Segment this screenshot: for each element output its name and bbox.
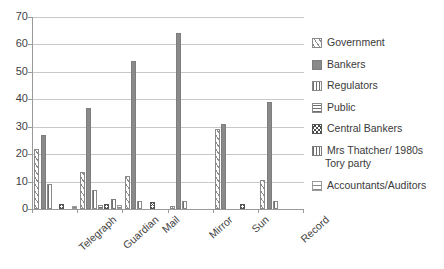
y-axis-tick-mark (28, 99, 32, 100)
bar-bankers-sun (221, 124, 226, 209)
bar-bankers-telegraph (41, 135, 46, 209)
x-axis-label-sun: Sun (250, 214, 271, 234)
legend-swatch-central-bankers-icon (312, 124, 322, 134)
x-axis-label-guardian: Guardian (121, 214, 160, 251)
bar-group (169, 17, 214, 209)
y-axis-tick-mark (28, 72, 32, 73)
bar-regulators-mirror (182, 201, 187, 209)
legend-label: Accountants/Auditors (327, 179, 426, 191)
legend-item-central-bankers[interactable]: Central Bankers (312, 122, 442, 134)
bar-regulators-record (273, 201, 278, 209)
legend-item-public[interactable]: Public (312, 101, 442, 113)
bar-bankers-guardian (86, 108, 91, 209)
legend-item-accountants[interactable]: Accountants/Auditors (312, 179, 442, 191)
y-axis-tick-label: 10 (2, 176, 28, 187)
x-axis-tick-mark (258, 209, 259, 213)
bar-accountants-telegraph (72, 206, 77, 209)
y-axis-tick-mark (28, 44, 32, 45)
x-axis-label-telegraph: Telegraph (76, 214, 117, 253)
y-axis-tick-mark (28, 182, 32, 183)
x-axis-label-mirror: Mirror (207, 214, 234, 240)
y-axis-tick-label: 20 (2, 148, 28, 159)
bar-bankers-record (267, 102, 272, 209)
bar-central-bankers-mail (150, 202, 155, 209)
legend-swatch-thatcher-icon (312, 146, 322, 156)
bar-government-record (260, 180, 265, 209)
bar-bankers-mail (131, 61, 136, 209)
bar-group (259, 17, 304, 209)
legend-label: Central Bankers (327, 122, 402, 134)
x-axis-tick-mark (77, 209, 78, 213)
y-axis-tick-label: 70 (2, 11, 28, 22)
x-axis-label-mail: Mail (160, 214, 181, 235)
bar-regulators-telegraph (47, 184, 52, 209)
bar-government-guardian (80, 172, 85, 209)
legend-item-government[interactable]: Government (312, 36, 442, 48)
x-axis-tick-mark (32, 209, 33, 213)
bar-chart: 010203040506070 TelegraphGuardianMailMir… (0, 0, 444, 269)
bar-group (78, 17, 123, 209)
y-axis-tick-label: 50 (2, 66, 28, 77)
bar-accountants-guardian (117, 205, 122, 209)
legend-item-bankers[interactable]: Bankers (312, 58, 442, 70)
y-axis-tick-label: 60 (2, 38, 28, 49)
bar-regulators-mail (137, 201, 142, 209)
legend-label: Bankers (327, 58, 366, 70)
y-axis-tick-label: 40 (2, 93, 28, 104)
bar-group (33, 17, 78, 209)
bar-thatcher-guardian (111, 199, 116, 209)
bar-public-guardian (98, 205, 103, 209)
y-axis-tick-mark (28, 127, 32, 128)
legend-swatch-government-icon (312, 38, 322, 48)
legend-item-regulators[interactable]: Regulators (312, 79, 442, 91)
bar-bankers-mirror (176, 33, 181, 209)
x-axis-tick-mark (122, 209, 123, 213)
y-axis-tick-mark (28, 154, 32, 155)
legend-label: Government (327, 36, 385, 48)
legend-label: Regulators (327, 79, 378, 91)
y-axis-tick-mark (28, 17, 32, 18)
y-axis-tick-label: 30 (2, 121, 28, 132)
y-axis-tick-label: 0 (2, 203, 28, 214)
legend-label-continued: Tory party (325, 157, 442, 169)
plot-area (32, 17, 304, 210)
bar-government-mirror (170, 206, 175, 209)
x-axis-tick-mark (168, 209, 169, 213)
bar-government-mail (125, 176, 130, 209)
bar-group (123, 17, 168, 209)
bar-central-bankers-guardian (104, 204, 109, 209)
legend-label: Mrs Thatcher/ 1980s (327, 144, 423, 156)
legend-item-thatcher[interactable]: Mrs Thatcher/ 1980s (312, 144, 442, 156)
bar-government-telegraph (34, 149, 39, 209)
legend-swatch-accountants-icon (312, 181, 322, 191)
legend-label: Public (327, 101, 356, 113)
legend-swatch-regulators-icon (312, 81, 322, 91)
legend: GovernmentBankersRegulatorsPublicCentral… (312, 36, 442, 200)
x-axis-tick-mark (213, 209, 214, 213)
bar-group (214, 17, 259, 209)
x-axis-label-record: Record (299, 214, 331, 244)
bar-central-bankers-telegraph (59, 204, 64, 209)
bar-regulators-guardian (92, 190, 97, 209)
x-axis-tick-mark (303, 209, 304, 213)
bar-government-sun (215, 129, 220, 209)
bar-central-bankers-sun (240, 204, 245, 209)
legend-swatch-bankers-icon (312, 60, 322, 70)
legend-swatch-public-icon (312, 103, 322, 113)
